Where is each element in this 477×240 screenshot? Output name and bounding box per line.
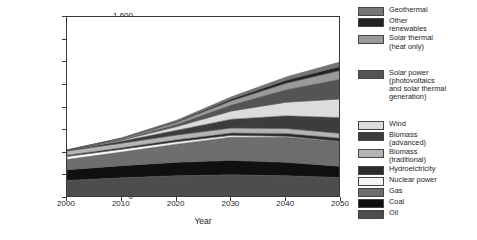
legend-label-wind: Wind <box>389 120 406 128</box>
legend-item-gas: Gas <box>358 187 476 197</box>
legend-swatch-geothermal <box>358 7 384 16</box>
x-tick-label: 2020 <box>156 200 196 208</box>
legend-group-bottom: WindBiomass (advanced)Biomass (tradition… <box>358 120 476 220</box>
x-tick-label: 2040 <box>265 200 305 208</box>
legend-label-hydroelectricity: Hydroelctricity <box>389 165 435 173</box>
legend-label-geothermal: Geothermal <box>389 6 428 14</box>
legend-label-biomass-traditional: Biomass (traditional) <box>389 148 426 164</box>
legend-item-hydroelectricity: Hydroelctricity <box>358 165 476 175</box>
legend-swatch-biomass-traditional <box>358 149 384 158</box>
x-axis-title: Year <box>66 216 340 226</box>
plot-frame <box>66 16 340 197</box>
legend-spacer-2 <box>358 103 476 120</box>
legend-group-top: GeothermalOther renewablesSolar thermal … <box>358 6 476 51</box>
legend-item-coal: Coal <box>358 198 476 208</box>
x-tick-label: 2050 <box>320 200 360 208</box>
legend-swatch-coal <box>358 199 384 208</box>
x-tick-mark <box>340 197 341 201</box>
x-tick-label: 2010 <box>101 200 141 208</box>
legend-group-middle: Solar power (photovoltaics and solar the… <box>358 69 476 102</box>
legend-item-wind: Wind <box>358 120 476 130</box>
legend-spacer <box>358 52 476 69</box>
legend-swatch-hydroelectricity <box>358 166 384 175</box>
legend-swatch-solar-thermal-heat-only <box>358 35 384 44</box>
legend-swatch-wind <box>358 121 384 130</box>
legend-label-other-renewables: Other renewables <box>389 17 427 33</box>
legend-label-gas: Gas <box>389 187 403 195</box>
legend-item-solar-power: Solar power (photovoltaics and solar the… <box>358 69 476 102</box>
legend-label-oil: Oil <box>389 209 398 217</box>
legend-item-other-renewables: Other renewables <box>358 17 476 33</box>
legend-label-solar-thermal-heat-only: Solar thermal (heat only) <box>389 34 433 50</box>
legend-item-biomass-traditional: Biomass (traditional) <box>358 148 476 164</box>
legend-swatch-nuclear-power <box>358 177 384 186</box>
legend-label-nuclear-power: Nuclear power <box>389 176 437 184</box>
chart-legend: GeothermalOther renewablesSolar thermal … <box>358 6 476 220</box>
plot-area <box>66 16 340 197</box>
legend-swatch-solar-power <box>358 70 384 79</box>
legend-label-solar-power: Solar power (photovoltaics and solar the… <box>389 69 446 102</box>
x-tick-mark <box>285 197 286 201</box>
legend-item-oil: Oil <box>358 209 476 219</box>
x-tick-mark <box>176 197 177 201</box>
legend-item-geothermal: Geothermal <box>358 6 476 16</box>
legend-swatch-other-renewables <box>358 18 384 27</box>
x-tick-label: 2030 <box>210 200 250 208</box>
legend-item-biomass-advanced: Biomass (advanced) <box>358 131 476 147</box>
legend-item-nuclear-power: Nuclear power <box>358 176 476 186</box>
legend-item-solar-thermal-heat-only: Solar thermal (heat only) <box>358 34 476 50</box>
legend-swatch-oil <box>358 210 384 219</box>
legend-swatch-gas <box>358 188 384 197</box>
legend-label-biomass-advanced: Biomass (advanced) <box>389 131 426 147</box>
chart-figure: Primary energy use (EJ/a) 02004006008001… <box>0 0 477 240</box>
x-tick-mark <box>66 197 67 201</box>
x-tick-mark <box>121 197 122 201</box>
x-tick-label: 2000 <box>46 200 86 208</box>
legend-label-coal: Coal <box>389 198 404 206</box>
x-tick-mark <box>230 197 231 201</box>
legend-swatch-biomass-advanced <box>358 132 384 141</box>
stacked-area-series <box>67 17 340 197</box>
